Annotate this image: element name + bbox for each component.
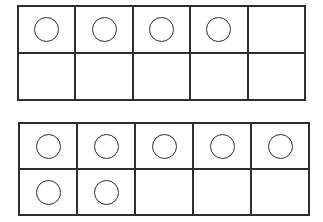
ten-frame-bottom-row-2-cell-5[interactable] [252,170,308,214]
circle-counter-icon [36,134,61,159]
ten-frame-top-row-2-cell-2[interactable] [76,54,133,99]
circle-counter-icon [210,134,235,159]
ten-frame-bottom-row-1-cell-3[interactable] [136,124,194,168]
ten-frame-bottom [18,122,310,216]
ten-frame-bottom-row-1 [20,124,308,170]
ten-frame-top-row-1 [19,7,304,54]
circle-counter-icon [206,17,231,42]
ten-frame-bottom-row-1-cell-4[interactable] [194,124,252,168]
ten-frame-top-row-1-cell-4[interactable] [191,7,248,52]
circle-counter-icon [268,134,293,159]
ten-frame-top-row-1-cell-1[interactable] [19,7,76,52]
ten-frame-top [17,5,306,101]
ten-frame-top-row-2-cell-4[interactable] [191,54,248,99]
ten-frame-top-row-2 [19,54,304,99]
ten-frame-bottom-row-2-cell-2[interactable] [78,170,136,214]
ten-frame-top-row-1-cell-5[interactable] [249,7,304,52]
ten-frame-bottom-row-1-cell-2[interactable] [78,124,136,168]
ten-frame-top-row-1-cell-2[interactable] [76,7,133,52]
circle-counter-icon [149,17,174,42]
ten-frame-top-row-1-cell-3[interactable] [134,7,191,52]
ten-frame-bottom-row-2-cell-4[interactable] [194,170,252,214]
circle-counter-icon [94,180,119,205]
ten-frame-bottom-row-1-cell-1[interactable] [20,124,78,168]
circle-counter-icon [92,17,117,42]
ten-frame-top-row-2-cell-5[interactable] [249,54,304,99]
circle-counter-icon [34,17,59,42]
circle-counter-icon [36,180,61,205]
ten-frame-top-row-2-cell-3[interactable] [134,54,191,99]
ten-frame-bottom-row-2 [20,170,308,214]
circle-counter-icon [94,134,119,159]
ten-frame-top-row-2-cell-1[interactable] [19,54,76,99]
ten-frame-bottom-row-1-cell-5[interactable] [252,124,308,168]
worksheet-canvas [0,0,323,222]
ten-frame-bottom-row-2-cell-1[interactable] [20,170,78,214]
circle-counter-icon [152,134,177,159]
ten-frame-bottom-row-2-cell-3[interactable] [136,170,194,214]
